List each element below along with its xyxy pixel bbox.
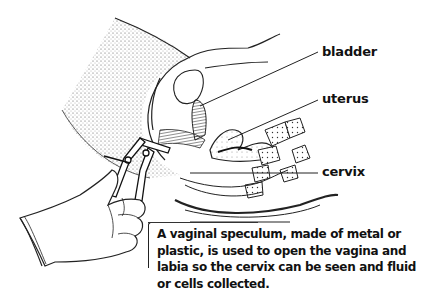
label-cervix: cervix: [322, 165, 365, 178]
gloved-hand: [20, 170, 145, 266]
label-bladder: bladder: [322, 45, 377, 58]
vagina-wall: [158, 100, 206, 148]
bladder-shape: [174, 70, 204, 104]
label-uterus: uterus: [322, 92, 369, 105]
thigh-shading: [62, 18, 190, 178]
figure-caption: A vaginal speculum, made of metal or pla…: [148, 222, 429, 292]
bladder-leader: [200, 52, 318, 106]
